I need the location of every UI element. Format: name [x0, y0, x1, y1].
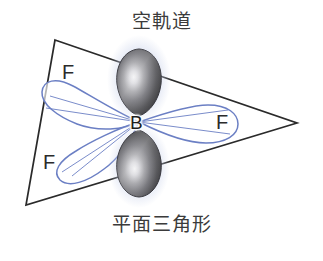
empty-orbital-label: 空軌道: [0, 12, 323, 31]
atom-label-boron: B: [130, 113, 143, 132]
planar-triangle-label: 平面三角形: [0, 215, 323, 234]
diagram-canvas: 空軌道 平面三角形 B F F F: [0, 0, 323, 261]
atom-label-fluorine-right: F: [216, 112, 228, 132]
atom-label-fluorine-lower-left: F: [43, 152, 55, 172]
atom-label-fluorine-upper-left: F: [62, 62, 74, 82]
